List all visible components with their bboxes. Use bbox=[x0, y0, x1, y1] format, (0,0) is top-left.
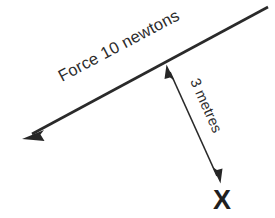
diagram-canvas: Force 10 newtons 3 metres X bbox=[0, 0, 275, 218]
point-marker-x: X bbox=[213, 185, 231, 215]
distance-arrowhead-top bbox=[165, 65, 175, 81]
force-arrowhead bbox=[22, 130, 45, 141]
force-label: Force 10 newtons bbox=[55, 6, 182, 85]
force-diagram: Force 10 newtons 3 metres X bbox=[0, 0, 275, 218]
distance-label: 3 metres bbox=[187, 76, 225, 136]
distance-arrowhead-bottom bbox=[213, 167, 223, 184]
